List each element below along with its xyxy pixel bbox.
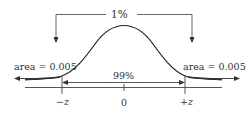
bracket-right [137, 15, 192, 43]
center-label: 99% [113, 71, 134, 81]
normal-curve-figure: 1% area = 0.005 area = 0.005 99% −z 0 +z [0, 0, 251, 117]
tick-label-neg-z: −z [56, 97, 69, 107]
top-bracket-label: 1% [111, 9, 128, 20]
left-tail-label: area = 0.005 [14, 62, 77, 72]
bracket-left [56, 15, 106, 43]
right-tail-label: area = 0.005 [183, 62, 246, 72]
tick-label-zero: 0 [121, 98, 127, 108]
tick-label-pos-z: +z [180, 97, 193, 107]
